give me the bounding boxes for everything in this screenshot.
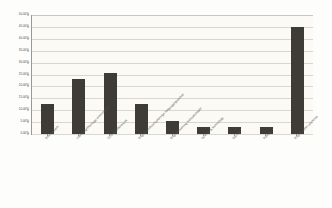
y-axis-tick-mark <box>27 98 29 99</box>
gridline <box>32 63 313 64</box>
y-axis-tick-mark <box>27 62 29 63</box>
plot-area <box>31 15 313 135</box>
y-axis-tick-mark <box>27 15 29 16</box>
bar[interactable] <box>72 79 85 134</box>
bar[interactable] <box>197 127 210 134</box>
bar[interactable] <box>135 104 148 134</box>
bar[interactable] <box>41 104 54 134</box>
bar[interactable] <box>291 27 304 134</box>
gridline <box>32 15 313 16</box>
gridline <box>32 75 313 76</box>
gridline <box>32 134 313 135</box>
y-axis-tick-mark <box>27 74 29 75</box>
y-axis-tick-mark <box>27 26 29 27</box>
y-axis-tick-mark <box>27 122 29 123</box>
bar[interactable] <box>104 73 117 134</box>
y-axis-tick-mark <box>27 50 29 51</box>
y-axis: 50.00%45.00%40.00%35.00%30.00%25.00%20.0… <box>0 15 29 134</box>
bar[interactable] <box>228 127 241 134</box>
gridline <box>32 51 313 52</box>
y-axis-tick-mark <box>27 134 29 135</box>
y-axis-tick-mark <box>27 86 29 87</box>
y-axis-tick-mark <box>27 38 29 39</box>
y-axis-tick-mark <box>27 110 29 111</box>
bar-chart: 50.00%45.00%40.00%35.00%30.00%25.00%20.0… <box>0 0 332 208</box>
gridline <box>32 27 313 28</box>
bar[interactable] <box>166 121 179 134</box>
bar[interactable] <box>260 127 273 134</box>
gridline <box>32 39 313 40</box>
